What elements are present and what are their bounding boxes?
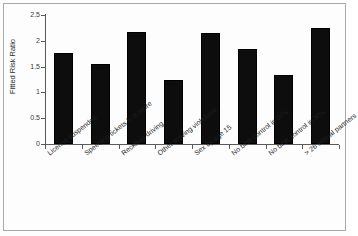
y-axis-tick-label-text: 2.5: [18, 11, 40, 18]
x-axis-tick: [192, 145, 193, 149]
y-axis-tick-label: 1: [16, 88, 40, 95]
bar: [238, 49, 257, 144]
y-axis-tick-label: 2: [16, 37, 40, 44]
x-axis-tick: [339, 145, 340, 149]
y-axis-tick-label-text: 0.5: [18, 114, 40, 121]
bar: [127, 32, 146, 144]
bar: [201, 33, 220, 144]
x-axis-tick: [155, 145, 156, 149]
y-axis-tick: [41, 118, 45, 119]
bar: [54, 53, 73, 144]
x-axis-tick: [45, 145, 46, 149]
y-axis-tick-label: 0: [16, 140, 40, 147]
y-axis-tick: [41, 41, 45, 42]
y-axis-tick-label-text: 0: [18, 140, 40, 147]
y-axis-tick: [41, 15, 45, 16]
x-axis-tick: [229, 145, 230, 149]
y-axis-tick-label-text: 1.5: [18, 63, 40, 70]
y-axis-tick-label-text: 1: [18, 88, 40, 95]
y-axis-tick-label: 2.5: [16, 11, 40, 18]
y-axis-tick-label: 1.5: [16, 63, 40, 70]
x-axis-tick: [266, 145, 267, 149]
x-axis-tick: [119, 145, 120, 149]
x-axis-tick: [82, 145, 83, 149]
bar: [311, 28, 330, 144]
y-axis-tick: [41, 67, 45, 68]
y-axis-tick-label-text: 2: [18, 37, 40, 44]
y-axis-tick: [41, 92, 45, 93]
x-axis-tick: [302, 145, 303, 149]
y-axis-line: [45, 14, 46, 145]
y-axis-tick-label: 0.5: [16, 114, 40, 121]
